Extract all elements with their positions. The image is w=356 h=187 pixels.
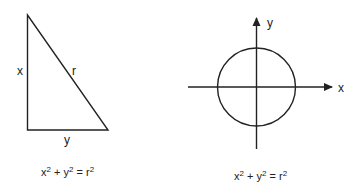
label-hypotenuse-r: r	[72, 64, 76, 78]
right-triangle	[28, 15, 109, 130]
diagram-canvas: x r y x2 + y2 = r2 x y x2 + y2 = r2	[0, 0, 356, 187]
circle-plot-figure: x y x2 + y2 = r2	[188, 16, 344, 182]
label-side-y: y	[64, 133, 70, 147]
y-axis-label: y	[267, 16, 273, 30]
right-triangle-figure: x r y x2 + y2 = r2	[17, 15, 108, 178]
x-axis-label: x	[338, 81, 344, 95]
circle-equation: x2 + y2 = r2	[234, 169, 288, 182]
triangle-equation: x2 + y2 = r2	[41, 165, 95, 178]
label-side-x: x	[17, 64, 23, 78]
